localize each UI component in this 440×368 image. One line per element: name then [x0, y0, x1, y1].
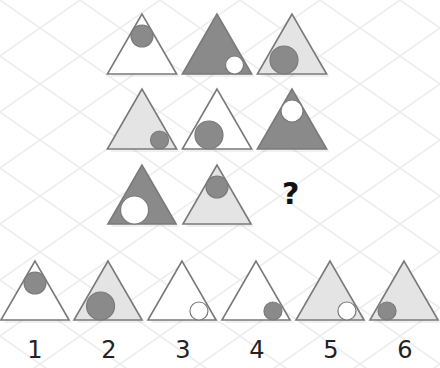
option-label-5: 5	[316, 336, 346, 364]
circle-shape	[190, 302, 208, 320]
option-2[interactable]	[74, 261, 145, 323]
matrix-cell-r3-c2	[183, 165, 254, 227]
puzzle-canvas	[0, 0, 440, 368]
option-3[interactable]	[148, 261, 219, 323]
option-label-3: 3	[168, 336, 198, 364]
circle-shape	[24, 272, 46, 294]
circle-shape	[281, 100, 303, 122]
circle-shape	[264, 302, 282, 320]
missing-cell-question-mark: ?	[282, 176, 299, 211]
option-label-1: 1	[20, 336, 50, 364]
circle-shape	[378, 302, 396, 320]
matrix-cell-r1-c2	[182, 14, 254, 77]
option-6[interactable]	[370, 261, 440, 323]
circle-shape	[131, 25, 153, 47]
circle-shape	[338, 302, 356, 320]
option-label-4: 4	[242, 336, 272, 364]
option-5[interactable]	[296, 261, 367, 323]
circle-shape	[121, 196, 149, 224]
matrix-cell-r2-c1	[107, 89, 179, 152]
option-label-6: 6	[390, 336, 420, 364]
matrix-cell-r3-c1	[108, 165, 179, 227]
circle-shape	[87, 292, 115, 320]
circle-shape	[206, 176, 228, 198]
circle-shape	[151, 131, 169, 149]
matrix-cell-r2-c3	[257, 89, 329, 152]
circle-shape	[195, 121, 223, 149]
circle-shape	[226, 56, 244, 74]
circle-shape	[270, 46, 298, 74]
option-4[interactable]	[222, 261, 293, 323]
matrix-cell-r2-c2	[182, 89, 254, 152]
matrix-cell-r1-c3	[257, 14, 329, 77]
matrix-cell-r1-c1	[107, 14, 179, 77]
option-label-2: 2	[94, 336, 124, 364]
option-1[interactable]	[1, 261, 72, 323]
